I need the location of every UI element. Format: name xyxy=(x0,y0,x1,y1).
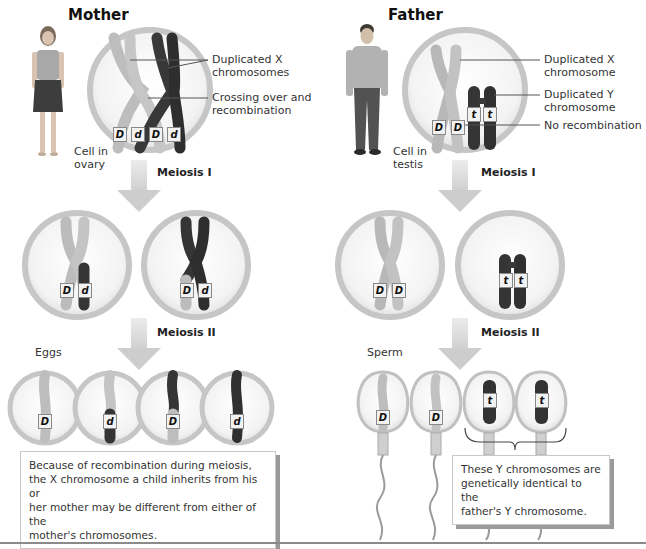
allele-label: D xyxy=(392,283,406,298)
meiosis-1-label-father: Meiosis I xyxy=(481,166,536,179)
mother-meiosis1-cell-1 xyxy=(25,213,129,317)
allele-label: t xyxy=(483,393,497,408)
callout-crossing-over: Crossing over and recombination xyxy=(212,91,311,117)
mother-meiosis1-cell-2 xyxy=(144,213,248,317)
allele-label: t xyxy=(499,273,513,288)
allele-label: d xyxy=(230,414,244,429)
cell-in-ovary-label: Cell in ovary xyxy=(74,145,108,171)
eggs xyxy=(10,373,272,443)
allele-label: D xyxy=(38,414,52,429)
allele-label: t xyxy=(483,107,497,122)
meiosis-1-arrow-mother xyxy=(117,160,161,212)
meiosis-2-arrow-mother xyxy=(117,318,161,370)
meiosis-1-arrow-father xyxy=(438,160,482,212)
allele-label: t xyxy=(467,107,481,122)
meiosis-2-label-mother: Meiosis II xyxy=(157,326,216,339)
father-figure-icon xyxy=(346,24,388,155)
father-heading: Father xyxy=(388,6,443,24)
allele-label: D xyxy=(376,410,390,425)
recombination-caption: Because of recombination during meiosis,… xyxy=(20,451,276,549)
allele-label: d xyxy=(103,414,117,429)
allele-label: t xyxy=(514,273,528,288)
callout-no-recombination: No recombination xyxy=(544,119,642,132)
allele-label: d xyxy=(198,283,212,298)
allele-label: D xyxy=(429,410,443,425)
allele-label: t xyxy=(535,393,549,408)
meiosis-1-label-mother: Meiosis I xyxy=(157,166,212,179)
allele-label: D xyxy=(432,120,446,135)
sperm-label: Sperm xyxy=(367,346,403,359)
allele-label: D xyxy=(166,414,180,429)
meiosis-2-label-father: Meiosis II xyxy=(481,326,540,339)
allele-label: D xyxy=(113,127,127,142)
allele-label: D xyxy=(149,127,163,142)
callout-duplicated-x-father: Duplicated X chromosome xyxy=(544,53,615,79)
mother-figure-icon xyxy=(32,26,64,156)
allele-label: D xyxy=(60,283,74,298)
allele-label: d xyxy=(167,127,181,142)
bottom-divider xyxy=(0,542,646,544)
allele-label: d xyxy=(78,283,92,298)
y-chromosome-caption: These Y chromosomes are genetically iden… xyxy=(452,455,610,525)
mother-heading: Mother xyxy=(68,6,129,24)
father-testis-cell xyxy=(405,30,525,150)
meiosis-2-arrow-father xyxy=(438,318,482,370)
callout-duplicated-x-mother: Duplicated X chromosomes xyxy=(212,53,289,79)
father-meiosis1-cell-2 xyxy=(458,213,562,317)
allele-label: D xyxy=(451,120,465,135)
eggs-label: Eggs xyxy=(35,346,62,359)
cell-in-testis-label: Cell in testis xyxy=(393,145,427,171)
father-meiosis1-cell-1 xyxy=(338,213,442,317)
allele-label: D xyxy=(180,283,194,298)
callout-duplicated-y: Duplicated Y chromosome xyxy=(544,88,615,114)
allele-label: d xyxy=(131,127,145,142)
allele-label: D xyxy=(373,283,387,298)
